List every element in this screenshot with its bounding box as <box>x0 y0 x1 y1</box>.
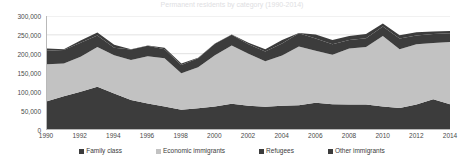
legend-item[interactable]: Family class <box>79 147 122 155</box>
legend-item-label: Economic immigrants <box>163 147 225 155</box>
y-axis-tick-label: 100,000 <box>0 89 41 96</box>
x-axis-tick-label: 2004 <box>267 131 297 141</box>
y-axis-tick-label: 250,000 <box>0 32 41 39</box>
x-axis-tick-label: 1994 <box>98 131 128 141</box>
x-axis-tick-label: 2002 <box>233 131 263 141</box>
chart-legend: Family classEconomic immigrantsRefugeesO… <box>0 145 464 157</box>
legend-swatch-icon <box>328 149 333 154</box>
stacked-area-chart: Permanent residents by category (1990-20… <box>0 0 464 166</box>
legend-swatch-icon <box>79 149 84 154</box>
legend-item-label: Other immigrants <box>335 147 385 155</box>
legend-swatch-icon <box>156 149 161 154</box>
y-axis-tick-label: 200,000 <box>0 51 41 58</box>
x-axis-tick-label: 1992 <box>65 131 95 141</box>
plot-area <box>46 16 450 130</box>
x-axis-tick-label: 2006 <box>300 131 330 141</box>
x-axis-tick-label: 2000 <box>199 131 229 141</box>
x-axis-tick-label: 2012 <box>401 131 431 141</box>
legend-item[interactable]: Other immigrants <box>328 147 385 155</box>
y-axis-tick-label: 300,000 <box>0 13 41 20</box>
plot-svg <box>47 16 450 129</box>
x-axis: 1990199219941996199820002002200420062008… <box>0 131 464 142</box>
x-axis-tick-label: 1990 <box>31 131 61 141</box>
y-axis-tick-label: 50,000 <box>0 108 41 115</box>
x-axis-tick-label: 2014 <box>435 131 464 141</box>
x-axis-tick-label: 1998 <box>166 131 196 141</box>
legend-item-label: Refugees <box>266 147 294 155</box>
x-axis-tick-label: 2010 <box>368 131 398 141</box>
x-axis-tick-label: 1996 <box>132 131 162 141</box>
y-axis-tick-label: 150,000 <box>0 70 41 77</box>
legend-swatch-icon <box>259 149 264 154</box>
x-axis-tick-label: 2008 <box>334 131 364 141</box>
chart-title: Permanent residents by category (1990-20… <box>0 0 464 9</box>
legend-item-label: Family class <box>86 147 122 155</box>
legend-item[interactable]: Refugees <box>259 147 294 155</box>
legend-item[interactable]: Economic immigrants <box>156 147 225 155</box>
